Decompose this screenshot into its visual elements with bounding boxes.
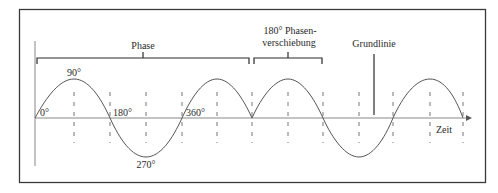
phase-label: Phase: [131, 40, 155, 51]
phase-bracket: [37, 52, 249, 64]
degree-label-360: 360°: [186, 107, 205, 118]
phase-shift-bracket: [254, 52, 322, 64]
time-axis-arrow-icon: [466, 115, 472, 121]
baseline-label: Grundlinie: [352, 38, 396, 49]
degree-label-0: 0°: [40, 107, 49, 118]
degree-label-90: 90°: [67, 67, 81, 78]
degree-label-180: 180°: [113, 107, 132, 118]
diagram-frame: [20, 10, 486, 183]
time-axis-label: Zeit: [436, 124, 452, 135]
degree-label-270: 270°: [137, 159, 156, 170]
phase-shift-label-line1: 180° Phasen-: [263, 25, 316, 36]
phase-shift-label-line2: verschiebung: [262, 37, 315, 48]
phase-diagram: Phase 180° Phasen- verschiebung Grundlin…: [0, 0, 498, 193]
